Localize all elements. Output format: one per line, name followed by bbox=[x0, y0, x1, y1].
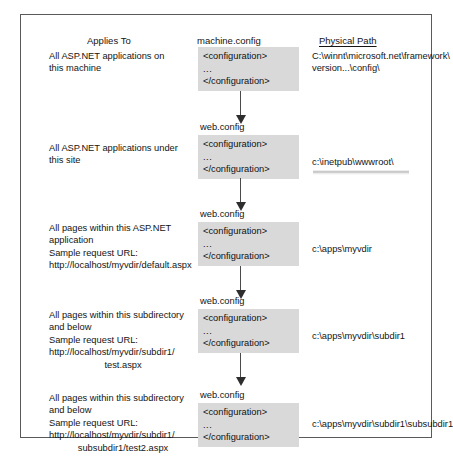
arrow-app-to-subdir bbox=[234, 266, 248, 300]
config-open-tag: <configuration> bbox=[203, 225, 294, 238]
physical-path-cell-row-1: C:\winnt\microsoft.net\framework\ versio… bbox=[312, 50, 452, 75]
arrow-machine-to-site bbox=[234, 91, 248, 125]
applies-to-sample-url-cont: test.aspx bbox=[49, 359, 197, 371]
applies-to-sample-url: http://localhost/myvdir/subdir1/ bbox=[49, 346, 197, 358]
config-ellipsis: ... bbox=[203, 63, 294, 76]
applies-to-line: this machine bbox=[49, 62, 197, 74]
applies-to-cell-row-5: All pages within this subdirectory and b… bbox=[49, 392, 197, 454]
applies-to-line: this site bbox=[49, 154, 197, 166]
applies-to-line: All pages within this subdirectory bbox=[49, 309, 197, 321]
arrow-site-to-app bbox=[234, 178, 248, 212]
physical-path-cell-row-5: c:\apps\myvdir\subdir1\subsubdir1 bbox=[312, 418, 453, 430]
config-open-tag: <configuration> bbox=[203, 406, 294, 419]
configuration-hierarchy-diagram: Applies To machine.config Physical Path … bbox=[20, 14, 432, 438]
physical-path-line: C:\winnt\microsoft.net\framework\ bbox=[312, 50, 452, 62]
scan-artifact-smudge bbox=[313, 170, 409, 175]
config-block-row-3: <configuration> ... </configuration> bbox=[198, 222, 299, 266]
config-label-row-3: web.config bbox=[200, 209, 244, 220]
applies-to-line: Sample request URL: bbox=[49, 247, 197, 259]
applies-to-sample-url: http://localhost/myvdir/subdir1/ bbox=[49, 429, 197, 441]
config-close-tag: </configuration> bbox=[203, 163, 294, 176]
config-ellipsis: ... bbox=[203, 238, 294, 251]
applies-to-cell-row-4: All pages within this subdirectory and b… bbox=[49, 309, 197, 371]
physical-path-cell-row-2: c:\inetpub\wwwroot\ bbox=[312, 156, 452, 168]
applies-to-cell-row-3: All pages within this ASP.NET applicatio… bbox=[49, 222, 197, 272]
applies-to-sample-url: http://localhost/myvdir/default.aspx bbox=[49, 259, 197, 271]
column-header-machine-config: machine.config bbox=[197, 35, 261, 47]
column-header-physical-path: Physical Path bbox=[319, 35, 377, 47]
config-label-row-4: web.config bbox=[200, 296, 244, 307]
applies-to-cell-row-1: All ASP.NET applications on this machine bbox=[49, 50, 197, 75]
applies-to-line: All pages within this subdirectory bbox=[49, 392, 197, 404]
applies-to-line: Sample request URL: bbox=[49, 417, 197, 429]
config-label-row-2: web.config bbox=[200, 122, 244, 133]
column-header-applies-to: Applies To bbox=[87, 35, 131, 47]
config-close-tag: </configuration> bbox=[203, 75, 294, 88]
config-open-tag: <configuration> bbox=[203, 312, 294, 325]
config-close-tag: </configuration> bbox=[203, 337, 294, 350]
config-close-tag: </configuration> bbox=[203, 250, 294, 263]
applies-to-line: All pages within this ASP.NET bbox=[49, 222, 197, 234]
config-open-tag: <configuration> bbox=[203, 50, 294, 63]
physical-path-line: c:\apps\myvdir\subdir1 bbox=[312, 330, 452, 342]
applies-to-line: All ASP.NET applications on bbox=[49, 50, 197, 62]
config-block-row-5: <configuration> ... </configuration> bbox=[198, 403, 299, 447]
config-block-row-1: <configuration> ... </configuration> bbox=[198, 47, 299, 91]
config-block-row-4: <configuration> ... </configuration> bbox=[198, 309, 299, 353]
config-ellipsis: ... bbox=[203, 325, 294, 338]
applies-to-line: All ASP.NET applications under bbox=[49, 142, 197, 154]
physical-path-cell-row-4: c:\apps\myvdir\subdir1 bbox=[312, 330, 452, 342]
physical-path-line: c:\inetpub\wwwroot\ bbox=[312, 156, 452, 168]
config-close-tag: </configuration> bbox=[203, 431, 294, 444]
config-label-row-5: web.config bbox=[200, 390, 244, 401]
applies-to-line: and below bbox=[49, 321, 197, 333]
applies-to-cell-row-2: All ASP.NET applications under this site bbox=[49, 142, 197, 167]
applies-to-sample-url-cont: subsubdir1/test2.aspx bbox=[49, 442, 197, 454]
config-ellipsis: ... bbox=[203, 419, 294, 432]
config-block-row-2: <configuration> ... </configuration> bbox=[198, 135, 299, 179]
physical-path-line: c:\apps\myvdir\subdir1\subsubdir1 bbox=[312, 418, 453, 430]
physical-path-line: version...\config\ bbox=[312, 62, 452, 74]
arrow-subdir-to-subsubdir bbox=[234, 353, 248, 387]
applies-to-line: application bbox=[49, 234, 197, 246]
applies-to-line: and below bbox=[49, 404, 197, 416]
physical-path-cell-row-3: c:\apps\myvdir bbox=[312, 243, 452, 255]
config-open-tag: <configuration> bbox=[203, 138, 294, 151]
physical-path-line: c:\apps\myvdir bbox=[312, 243, 452, 255]
applies-to-line: Sample request URL: bbox=[49, 334, 197, 346]
config-ellipsis: ... bbox=[203, 151, 294, 164]
